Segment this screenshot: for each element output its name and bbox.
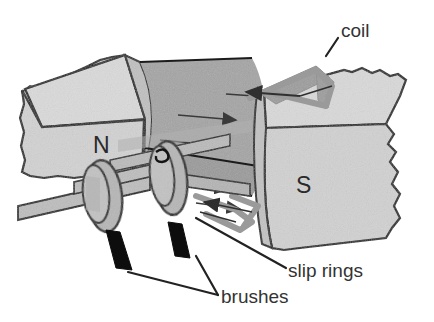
diagram-canvas: N S coil slip rings brushes bbox=[0, 0, 434, 322]
north-pole-label: N bbox=[93, 134, 110, 157]
brush-left bbox=[106, 230, 132, 270]
brush-contacts bbox=[106, 222, 190, 270]
ac-generator-illustration bbox=[0, 0, 434, 322]
leader-coil bbox=[326, 38, 338, 56]
coil-label: coil bbox=[341, 21, 370, 40]
brush-right bbox=[168, 222, 190, 258]
slip-rings-label: slip rings bbox=[288, 261, 363, 280]
slip-ring-left-thickness bbox=[86, 176, 100, 212]
leader-brushes-left bbox=[128, 272, 218, 295]
north-magnet-top-plane bbox=[25, 55, 145, 127]
south-magnet-front-face bbox=[264, 124, 400, 250]
coil-lower-loop bbox=[196, 196, 258, 230]
south-pole-label: S bbox=[296, 174, 312, 197]
brushes-label: brushes bbox=[221, 287, 289, 306]
